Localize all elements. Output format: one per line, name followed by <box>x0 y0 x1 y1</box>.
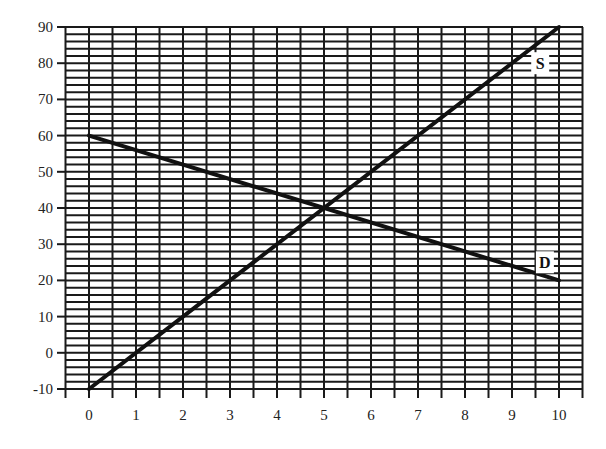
y-tick-label: 70 <box>38 91 53 107</box>
series-label-s: S <box>536 55 545 72</box>
y-tick-label: -10 <box>33 381 53 397</box>
y-tick-label: 20 <box>38 272 53 288</box>
y-tick-label: 0 <box>46 345 54 361</box>
x-tick-label: 8 <box>461 407 469 423</box>
x-tick-label: 6 <box>367 407 375 423</box>
y-tick-label: 10 <box>38 309 53 325</box>
y-tick-label: 60 <box>38 128 53 144</box>
series-label-d: D <box>539 254 551 271</box>
y-tick-label: 50 <box>38 164 53 180</box>
x-tick-label: 4 <box>273 407 281 423</box>
x-tick-label: 5 <box>320 407 328 423</box>
x-tick-label: 0 <box>85 407 93 423</box>
x-tick-label: 9 <box>508 407 516 423</box>
x-tick-label: 3 <box>226 407 234 423</box>
supply-demand-chart: -100102030405060708090012345678910 SD <box>0 0 606 449</box>
y-tick-label: 80 <box>38 55 53 71</box>
x-tick-label: 1 <box>132 407 140 423</box>
x-tick-label: 10 <box>552 407 567 423</box>
x-tick-label: 7 <box>414 407 422 423</box>
grid <box>65 27 583 398</box>
y-tick-label: 30 <box>38 236 53 252</box>
y-tick-label: 90 <box>38 19 53 35</box>
x-tick-label: 2 <box>179 407 187 423</box>
y-tick-label: 40 <box>38 200 53 216</box>
